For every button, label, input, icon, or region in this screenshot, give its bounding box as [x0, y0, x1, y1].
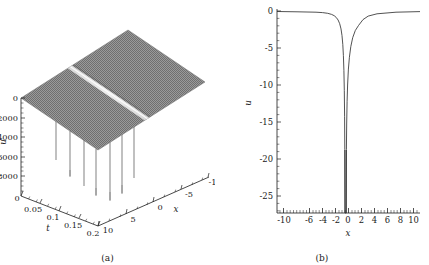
surface-mesh	[21, 30, 205, 150]
t-tick-2: 0.1	[46, 212, 59, 222]
t-tick-0: 0	[14, 193, 19, 203]
u-b-tick-1: -5	[265, 43, 273, 53]
panel-b-line-plot: 0 -5 -10 -15 -20 -25 u	[215, 0, 429, 265]
u-tick-0: 0	[13, 93, 18, 103]
x-tick-4: -10	[208, 177, 215, 187]
x-b-tick-9: 10	[408, 215, 419, 225]
panel-a-surface-plot: 0 -2000 -4000 -6000 -8000 u	[0, 0, 215, 265]
axis-label-x-b: x	[346, 228, 351, 238]
u-b-tick-2: -10	[260, 80, 274, 90]
singularity-walls	[345, 150, 346, 213]
x-b-tick-6: 4	[372, 215, 377, 225]
x-b-tick-7: 6	[385, 215, 390, 225]
x-b-tick-2: -4	[319, 215, 327, 225]
u-b-tick-0: 0	[268, 6, 273, 16]
data-series-u-of-x	[277, 12, 420, 214]
x-b-tick-1: -6	[305, 215, 313, 225]
axis-x-b: -10 -6 -4 -2 0 2 4 6 8 10 x	[277, 208, 420, 238]
u-tick-3: -6000	[0, 152, 18, 162]
x-b-tick-0: -10	[277, 215, 291, 225]
axis-label-u-b: u	[243, 100, 253, 106]
axis-label-u: u	[0, 139, 8, 145]
x-b-tick-5: 2	[359, 215, 364, 225]
u-b-tick-5: -25	[260, 191, 274, 201]
x-tick-2: 0	[157, 202, 162, 212]
x-tick-3: -5	[185, 189, 193, 199]
panel-b-caption: (b)	[215, 253, 429, 263]
panel-a-caption: (a)	[0, 253, 215, 263]
x-b-tick-8: 8	[398, 215, 403, 225]
u-b-tick-3: -15	[260, 117, 274, 127]
axis-u-b: 0 -5 -10 -15 -20 -25 u	[243, 6, 281, 213]
x-b-tick-4: 0	[345, 215, 350, 225]
axis-t: 0 0.05 0.1 0.15 0.2 t	[14, 191, 100, 238]
panel-a-svg: 0 -2000 -4000 -6000 -8000 u	[0, 0, 215, 240]
axis-u: 0 -2000 -4000 -6000 -8000 u	[0, 93, 25, 196]
axis-label-t: t	[46, 223, 50, 233]
x-tick-1: 5	[130, 214, 135, 224]
t-tick-4: 0.2	[86, 228, 99, 238]
axis-label-x-a: x	[174, 204, 179, 214]
figure-container: 0 -2000 -4000 -6000 -8000 u	[0, 0, 429, 265]
u-tick-1: -2000	[0, 113, 18, 123]
panel-b-svg: 0 -5 -10 -15 -20 -25 u	[215, 0, 429, 240]
t-tick-3: 0.15	[64, 220, 82, 230]
x-tick-0: 10	[103, 225, 113, 235]
t-tick-1: 0.05	[24, 204, 42, 214]
u-b-tick-4: -20	[260, 154, 274, 164]
x-b-tick-3: -2	[332, 215, 340, 225]
u-tick-4: -8000	[0, 171, 18, 181]
axis-x: 10 5 0 -5 -10 x	[98, 173, 215, 235]
